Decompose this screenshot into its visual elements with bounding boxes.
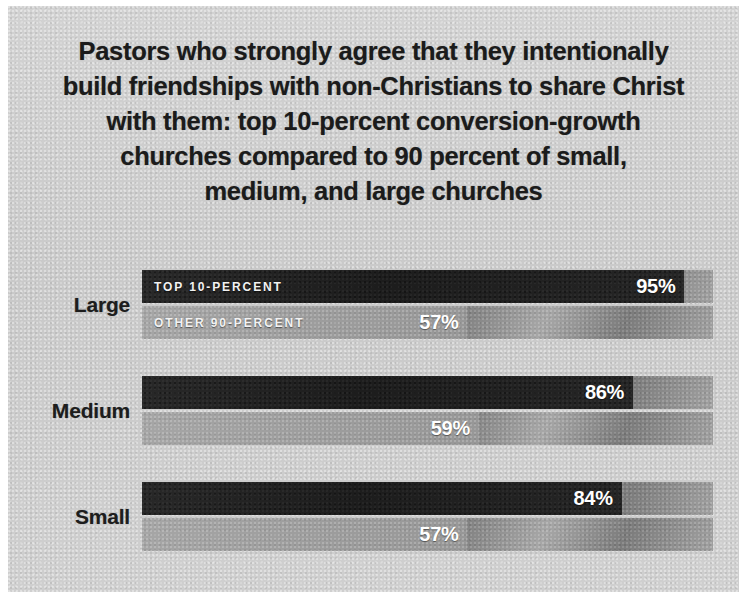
bar-row-small-top10: 84% <box>142 482 713 515</box>
bar-value-small-top10: 84% <box>573 482 612 515</box>
chart-title-line-3: with them: top 10-percent conversion-gro… <box>22 104 725 139</box>
bar-fill-medium-other90[interactable]: 59% <box>142 412 479 445</box>
bar-value-medium-other90: 59% <box>431 412 470 445</box>
bar-rows-small: 84% 57% <box>142 482 713 552</box>
category-label-medium: Medium <box>8 390 130 432</box>
bar-row-medium-top10: 86% <box>142 376 713 409</box>
chart-title: Pastors who strongly agree that they int… <box>22 34 725 209</box>
bar-group-medium: Medium 86% 59% <box>8 376 739 446</box>
chart-title-line-2: build friendships with non-Christians to… <box>22 69 725 104</box>
chart-title-line-4: churches compared to 90 percent of small… <box>22 139 725 174</box>
bar-row-small-other90: 57% <box>142 518 713 551</box>
bar-group-large: Large TOP 10-PERCENT 95% OTHER 90-PERCEN… <box>8 270 739 340</box>
bar-value-small-other90: 57% <box>419 518 458 551</box>
bar-group-small: Small 84% 57% <box>8 482 739 552</box>
category-label-large: Large <box>8 284 130 326</box>
series-legend-other90: OTHER 90-PERCENT <box>154 306 304 339</box>
chart-title-line-5: medium, and large churches <box>22 174 725 209</box>
bar-row-medium-other90: 59% <box>142 412 713 445</box>
chart-figure: Pastors who strongly agree that they int… <box>0 0 748 601</box>
bar-rows-large: TOP 10-PERCENT 95% OTHER 90-PERCENT 57% <box>142 270 713 340</box>
chart-plot-area: Large TOP 10-PERCENT 95% OTHER 90-PERCEN… <box>8 258 739 578</box>
chart-title-line-1: Pastors who strongly agree that they int… <box>22 34 725 69</box>
bar-fill-medium-top10[interactable]: 86% <box>142 376 633 409</box>
category-label-small: Small <box>8 496 130 538</box>
bar-fill-large-top10[interactable]: TOP 10-PERCENT 95% <box>142 270 684 303</box>
bar-fill-large-other90[interactable]: OTHER 90-PERCENT 57% <box>142 306 467 339</box>
chart-panel: Pastors who strongly agree that they int… <box>8 6 739 592</box>
bar-fill-small-top10[interactable]: 84% <box>142 482 622 515</box>
bar-row-large-other90: OTHER 90-PERCENT 57% <box>142 306 713 339</box>
bar-value-medium-top10: 86% <box>585 376 624 409</box>
bar-value-large-top10: 95% <box>636 270 675 303</box>
series-legend-top10: TOP 10-PERCENT <box>154 270 283 303</box>
bar-fill-small-other90[interactable]: 57% <box>142 518 467 551</box>
bar-value-large-other90: 57% <box>419 306 458 339</box>
bar-rows-medium: 86% 59% <box>142 376 713 446</box>
bar-row-large-top10: TOP 10-PERCENT 95% <box>142 270 713 303</box>
